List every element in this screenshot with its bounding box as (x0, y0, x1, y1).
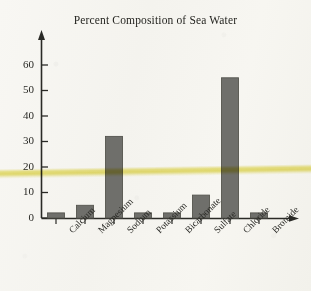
y-tick-label-0: 0 (8, 211, 34, 223)
y-tick-label-50: 50 (8, 83, 34, 95)
y-tick-label-60: 60 (8, 58, 34, 70)
bar-series (48, 78, 268, 218)
y-tick-label-20: 20 (8, 160, 34, 172)
scanned-chart-page: Percent Composition of Sea Water (0, 0, 311, 291)
bar-calcium (48, 213, 65, 218)
bar-chloride (222, 78, 239, 218)
bar-chart-plot (0, 0, 311, 291)
y-axis-arrowhead (38, 30, 45, 40)
y-tick-label-10: 10 (8, 185, 34, 197)
y-tick-label-40: 40 (8, 109, 34, 121)
y-axis-ticks (42, 65, 49, 218)
y-tick-label-30: 30 (8, 134, 34, 146)
